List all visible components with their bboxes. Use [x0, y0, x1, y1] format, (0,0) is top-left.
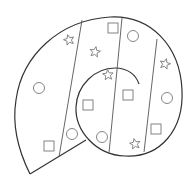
- star-shape: [160, 59, 170, 69]
- circle-shape: [67, 129, 78, 140]
- circle-shape: [34, 83, 45, 94]
- circle-shape: [162, 93, 173, 104]
- circle-shape: [128, 31, 139, 42]
- shell-base-edge: [30, 140, 86, 174]
- square-shape: [123, 90, 133, 100]
- star-shape: [103, 70, 114, 80]
- square-shape: [83, 100, 93, 110]
- star-shape: [90, 47, 100, 57]
- square-shape: [151, 124, 161, 134]
- circle-shape: [97, 132, 108, 143]
- square-shape: [108, 23, 118, 33]
- spiral-shell-diagram: [0, 0, 193, 191]
- star-shape: [64, 35, 74, 45]
- square-shape: [44, 141, 54, 151]
- band-divider-1: [59, 20, 82, 157]
- band-divider-3: [144, 39, 157, 152]
- band-divider-2: [109, 18, 122, 153]
- star-shape: [130, 139, 140, 149]
